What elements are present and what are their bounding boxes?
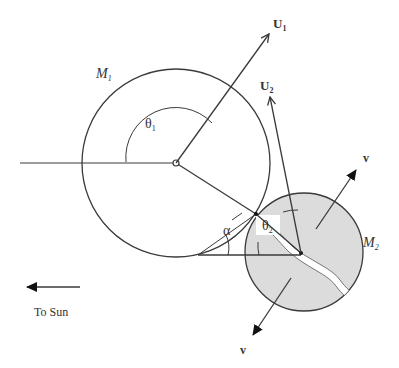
diagram-canvas: M1 M2 U1 U2 v v θ1 θ2 α To Sun [0, 0, 399, 368]
theta1-arc [126, 107, 212, 162]
label-m2: M2 [362, 235, 379, 252]
contact-point-dot [254, 212, 258, 216]
label-v-down: v [240, 343, 246, 357]
contact-tick [232, 213, 242, 220]
label-alpha: α [223, 223, 231, 238]
label-theta1: θ1 [145, 116, 156, 133]
label-u2: U2 [260, 78, 273, 95]
label-u1: U1 [273, 16, 286, 33]
alpha-arc [226, 235, 229, 255]
u1-vector-arrow [176, 34, 269, 163]
label-to-sun: To Sun [34, 305, 68, 319]
collision-diagram: M1 M2 U1 U2 v v θ1 θ2 α To Sun [0, 0, 399, 368]
center-to-contact-line [176, 163, 256, 214]
label-m1: M1 [95, 66, 112, 83]
label-v-up: v [363, 151, 369, 165]
